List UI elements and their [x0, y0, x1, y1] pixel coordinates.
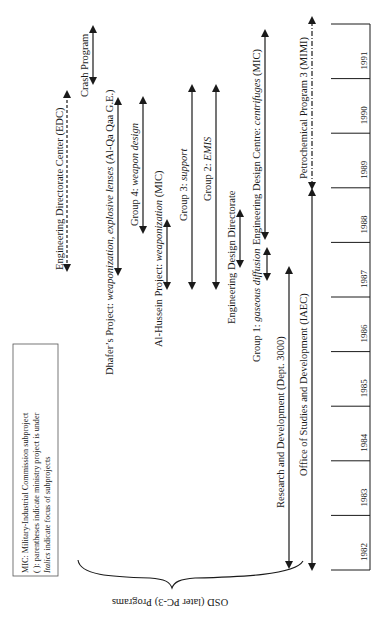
- year-label: 1986: [359, 324, 369, 343]
- year-label: 1982: [359, 543, 369, 561]
- petrochemical-label: Petrochemical Program 3 (MIMI): [298, 36, 310, 179]
- year-label: 1990: [359, 106, 369, 125]
- year-axis: [331, 24, 370, 570]
- engineering-design-directorate-label: Engineering Design Directorate: [226, 190, 237, 324]
- group-label: OSD (later PC-3) Programs: [112, 596, 228, 608]
- group3-label: Group 3: support: [178, 148, 189, 221]
- program-labels: Engineering Directorate Center (EDC) Cra…: [54, 34, 310, 508]
- legend-line-3: Italics indicate focus of subprojects: [43, 457, 52, 574]
- year-label: 1984: [359, 433, 369, 452]
- dhafer-project-label: Dhafer’s Project: weaponization, explosi…: [104, 89, 116, 375]
- edc-label: Engineering Directorate Center (EDC): [54, 107, 66, 270]
- year-label: 1989: [359, 160, 369, 179]
- group4-label: Group 4: weapon design: [129, 123, 140, 226]
- year-label: 1991: [359, 52, 369, 70]
- year-label: 1983: [359, 488, 369, 507]
- al-hussein-label: Al-Hussein Project: weaponization (MIC): [153, 170, 165, 347]
- group2-label: Group 2: EMIS: [202, 136, 213, 201]
- engineering-design-centre-label: Engineering Design Centre: centrifuges (…: [251, 49, 263, 245]
- group1-label: Group 1: gaseous diffusion: [251, 249, 262, 362]
- legend-line-1: MIC: Military-Industrial Commission subp…: [21, 412, 30, 573]
- year-label: 1988: [359, 215, 369, 234]
- rd-dept3000-label: Research and Development (Dept. 3000): [275, 336, 287, 508]
- year-labels: 1982 1983 1984 1985 1986 1987 1988 1989 …: [359, 52, 369, 561]
- timeline-diagram: 1982 1983 1984 1985 1986 1987 1988 1989 …: [0, 0, 379, 617]
- group-brace: [78, 560, 303, 588]
- legend-line-2: ( ): parentheses indicate ministry proje…: [32, 412, 41, 573]
- year-label: 1985: [359, 379, 369, 398]
- iaec-label: Office of Studies and Development (IAEC): [298, 293, 310, 476]
- legend: MIC: Military-Industrial Commission subp…: [13, 344, 58, 576]
- crash-program-label: Crash Program: [79, 34, 90, 97]
- year-label: 1987: [359, 270, 369, 289]
